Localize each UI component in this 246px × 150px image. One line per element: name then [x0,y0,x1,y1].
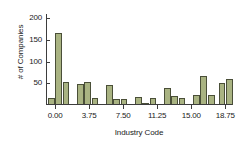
histogram-bar [226,79,233,105]
x-tick-label: 7.50 [106,111,140,120]
x-tick-mark [157,105,158,109]
x-tick-mark [123,105,124,109]
x-tick-label: 3.75 [72,111,106,120]
plot-area [46,14,232,105]
x-tick-label: 0.00 [38,111,72,120]
x-tick-mark [191,105,192,109]
x-tick-mark [225,105,226,109]
y-tick-label: 50 [18,79,42,87]
y-tick-label: 150 [18,36,42,44]
x-axis-line [46,104,232,105]
histogram-bar [55,33,62,105]
x-tick-label: 18.75 [208,111,242,120]
histogram-figure: # of Companies 50100150200 0.003.757.501… [0,0,246,150]
histogram-bar [77,84,84,105]
histogram-bar [219,83,226,105]
histogram-bar [63,82,70,105]
y-tick-label: 200 [18,14,42,22]
histogram-bar [106,85,113,105]
histogram-bar [200,76,207,105]
y-tick-label: 100 [18,58,42,66]
x-tick-label: 15.00 [174,111,208,120]
x-tick-mark [55,105,56,109]
histogram-bar [84,82,91,105]
x-tick-label: 11.25 [140,111,174,120]
x-axis-title: Industry Code [46,128,232,137]
x-tick-mark [89,105,90,109]
histogram-bar [164,88,171,105]
